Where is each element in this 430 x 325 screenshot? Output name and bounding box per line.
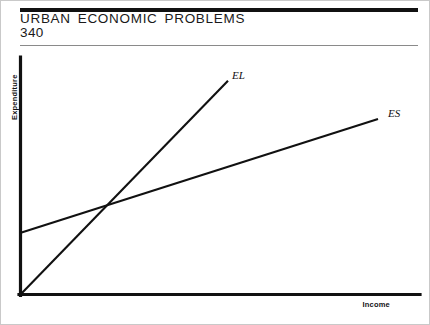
line-chart: EL ES Expenditure Income [0, 0, 430, 325]
series-label-es: ES [387, 107, 401, 119]
series-label-el: EL [231, 69, 245, 81]
textbook-figure-page: URBAN ECONOMIC PROBLEMS 340 EL ES Expend… [0, 0, 430, 325]
x-axis-title: Income [363, 300, 390, 309]
series-line-es [20, 119, 378, 233]
y-axis-title: Expenditure [10, 74, 19, 120]
chart-canvas: EL ES Expenditure Income [0, 0, 430, 325]
series-line-el [20, 81, 228, 295]
